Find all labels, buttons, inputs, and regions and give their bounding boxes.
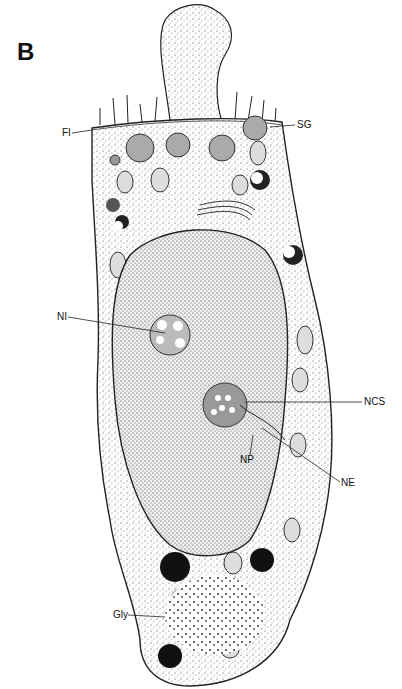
label-gly: Gly [113,610,128,620]
label-fi: FI [62,128,71,138]
nucleolus [150,315,190,355]
label-ni: NI [57,312,67,322]
label-sg: SG [297,120,311,130]
glycogen-area [165,575,265,655]
cell-illustration [0,0,402,689]
label-ncs: NCS [364,397,385,407]
label-ne: NE [341,478,355,488]
label-np: NP [240,455,254,465]
apical-protrusion [161,5,232,122]
